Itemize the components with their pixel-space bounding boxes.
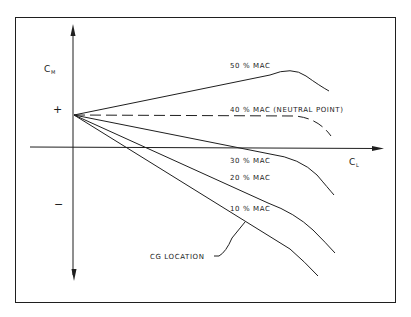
arrow-up-icon — [71, 24, 76, 36]
label-10-mac: 10 % MAC — [230, 205, 270, 213]
svg-text:C: C — [44, 64, 50, 74]
positive-sign: + — [53, 103, 62, 116]
cm-cl-diagram: C M + − C L 50 % MAC 40 % MAC (NEUTRAL P… — [0, 0, 411, 317]
label-cg-location: CG LOCATION — [150, 253, 205, 261]
label-20-mac: 20 % MAC — [230, 174, 270, 182]
cl-axis-label: C L — [349, 157, 359, 168]
curve-20-mac — [74, 115, 335, 253]
arrow-down-icon — [72, 269, 77, 281]
curve-30-mac — [74, 115, 334, 195]
svg-text:C: C — [349, 157, 355, 167]
label-50-mac: 50 % MAC — [230, 62, 270, 70]
cl-axis — [30, 147, 378, 149]
arrow-right-icon — [372, 146, 384, 151]
negative-sign: − — [54, 198, 63, 211]
svg-text:L: L — [356, 162, 359, 168]
svg-text:M: M — [51, 69, 55, 75]
cm-axis-label: C M — [44, 64, 55, 75]
label-40-mac: 40 % MAC (NEUTRAL POINT) — [230, 106, 344, 114]
label-30-mac: 30 % MAC — [230, 157, 270, 165]
cg-location-leader — [214, 222, 245, 256]
